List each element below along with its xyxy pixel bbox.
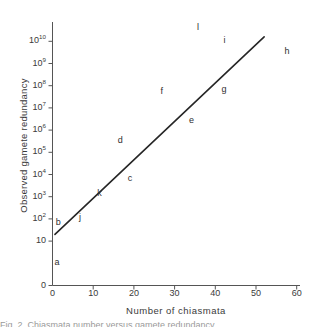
data-point-label-k: k (97, 189, 102, 198)
data-point-label-d: d (118, 136, 123, 145)
data-point-label-l: l (197, 23, 199, 32)
data-point-label-b: b (56, 218, 61, 227)
data-point-label-a: a (55, 258, 60, 267)
axis-lines (53, 22, 301, 286)
data-point-label-e: e (189, 116, 194, 125)
figure-root: Observed gamete redundancy Number of chi… (0, 0, 314, 327)
data-point-label-j: j (79, 213, 81, 222)
data-point-label-f: f (160, 87, 163, 96)
data-point-label-h: h (285, 47, 290, 56)
figure-caption-sliver: Fig. 2. Chiasmata number versus gamete r… (0, 320, 314, 327)
data-point-label-g: g (221, 85, 226, 94)
data-point-label-i: i (223, 36, 225, 45)
y-tick-marks (49, 41, 53, 285)
trend-line-segment (55, 37, 264, 235)
data-point-label-c: c (128, 174, 133, 183)
plot-area (0, 0, 314, 327)
trend-line (55, 37, 264, 235)
